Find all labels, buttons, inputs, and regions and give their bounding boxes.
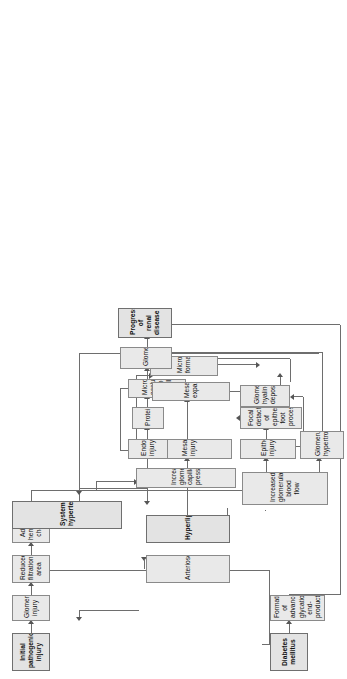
node-label: Increased glomerular blood flow — [269, 475, 301, 502]
edge-line — [96, 481, 97, 491]
node-diabetes-mellitus[interactable]: Diabetes mellitus — [270, 633, 308, 671]
edge-line — [31, 490, 147, 491]
node-label: Focal detachment of epithelial foot proc… — [247, 410, 295, 426]
edge-line — [79, 353, 319, 354]
edge-line — [96, 481, 136, 482]
node-glomerular-hyaline-deposition[interactable]: Glomerular hyaline deposition — [240, 385, 290, 407]
edge-line — [266, 429, 267, 439]
node-label: Initial pathogenic injury — [19, 636, 43, 668]
edge-line — [79, 488, 147, 489]
node-label: Arteriosclerosis — [184, 558, 192, 580]
node-initial-pathogenic-injury[interactable]: Initial pathogenic injury — [12, 633, 50, 671]
node-label: Progression of renal disease — [129, 311, 161, 335]
node-increased-glomerular-capillary-pressure[interactable]: Increased glomerular capillary pressure — [136, 468, 236, 488]
edge-line — [187, 401, 188, 439]
node-label: Epithelial injury — [260, 442, 276, 456]
node-label: Mesangial expansion — [183, 385, 199, 398]
node-epithelial-injury[interactable]: Epithelial injury — [240, 439, 296, 459]
edge-line — [79, 353, 80, 489]
node-label: Glomerular hyaline deposition — [253, 388, 277, 404]
node-glomerular-hypertrophy[interactable]: Glomerular hypertrophy — [300, 431, 344, 459]
node-increased-glomerular-blood-flow[interactable]: Increased glomerular blood flow — [242, 472, 328, 505]
edge-arrow — [76, 617, 82, 621]
node-label: Systemic hypertension — [59, 504, 75, 526]
edge-line — [147, 370, 148, 379]
node-reduced-filtration-area[interactable]: Reduced filtration area — [12, 555, 50, 583]
node-label: Increased glomerular capillary pressure — [170, 471, 202, 485]
edge-line — [265, 510, 266, 511]
edge-line — [262, 644, 270, 645]
edge-line — [144, 559, 145, 569]
edge-line — [120, 389, 121, 451]
edge-line — [171, 324, 340, 325]
edge-line — [147, 458, 148, 468]
node-endothelial-injury[interactable]: Endothelial injury — [128, 439, 168, 459]
edge-line — [171, 352, 323, 353]
edge-line — [294, 396, 303, 397]
figure-canvas: Initial pathogenic injury Glomerular inj… — [0, 0, 347, 679]
node-formation-of-advanced-glycation-end-products[interactable]: Formation of advanced glycation end-prod… — [270, 595, 325, 621]
node-progression-of-renal-disease[interactable]: Progression of renal disease — [118, 308, 172, 338]
edge-line — [340, 325, 341, 595]
edge-arrow — [76, 491, 82, 495]
edge-line — [147, 338, 148, 347]
node-label: Diabetes mellitus — [281, 636, 297, 668]
node-label: Glomerular injury — [23, 598, 39, 618]
edge-line — [147, 398, 148, 407]
edge-line — [322, 353, 323, 431]
edge-line — [31, 585, 32, 595]
node-label: Reduced filtration area — [19, 558, 43, 580]
node-label: Endothelial injury — [140, 442, 156, 456]
node-label: Glomerular hypertrophy — [314, 434, 330, 456]
node-focal-detachment[interactable]: Focal detachment of epithelial foot proc… — [240, 407, 302, 429]
node-systemic-hypertension[interactable]: Systemic hypertension — [12, 501, 122, 529]
node-label: Hyperlipidemia — [184, 518, 192, 540]
node-glomerular-injury[interactable]: Glomerular injury — [12, 595, 50, 621]
node-label: Microaneurysm formation — [176, 359, 192, 373]
node-label: Formation of advanced glycation end-prod… — [273, 598, 321, 618]
edge-arrow — [290, 394, 294, 400]
edge-line — [290, 359, 291, 382]
flowchart-stage: Initial pathogenic injury Glomerular inj… — [0, 0, 347, 679]
node-mesangial-expansion[interactable]: Mesangial expansion — [152, 382, 230, 401]
edge-line — [218, 364, 258, 365]
node-label: Glomerulosclerosis — [142, 350, 150, 366]
node-glomerulosclerosis[interactable]: Glomerulosclerosis — [120, 347, 172, 369]
node-label: Mesangial injury — [181, 442, 197, 456]
edge-arrow — [256, 362, 260, 368]
edge-line — [266, 460, 267, 472]
edge-arrow — [277, 373, 283, 377]
node-arteriosclerosis[interactable]: Arteriosclerosis — [146, 555, 230, 583]
edge-line — [31, 545, 32, 555]
node-hyperlipidemia[interactable]: Hyperlipidemia — [146, 515, 230, 543]
edge-arrow — [144, 501, 150, 505]
node-proteinuria[interactable]: Proteinuria — [132, 407, 164, 429]
node-label: Proteinuria — [144, 410, 152, 426]
edge-line — [79, 610, 80, 617]
edge-line — [289, 623, 290, 633]
edge-line — [79, 610, 139, 611]
edge-line — [147, 429, 148, 439]
edge-line — [31, 623, 32, 633]
